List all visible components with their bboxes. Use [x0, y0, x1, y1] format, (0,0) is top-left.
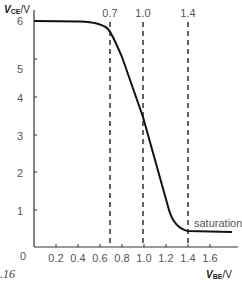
chart: 6 5 4 3 2 1 0 0.2 0.4 0.6 0.8 1.0 1.2 1.…: [0, 0, 242, 282]
x-tick-0.4: 0.4: [70, 252, 85, 264]
saturation-label: saturation: [194, 217, 242, 229]
y-tick-labels: 6 5 4 3 2 1 0: [17, 15, 26, 262]
ref-label-1.4: 1.4: [180, 7, 195, 19]
x-tick-1.4: 1.4: [180, 252, 195, 264]
x-axis-title: VBE/V: [206, 269, 232, 280]
y-tick-0: 0: [20, 250, 26, 262]
x-tick-1.0: 1.0: [136, 252, 151, 264]
x-tick-0.8: 0.8: [114, 252, 129, 264]
figure-label: 1.16: [0, 267, 15, 281]
x-tick-1.6: 1.6: [202, 252, 217, 264]
y-axis-title: VCE/V: [4, 4, 30, 15]
data-curve: [34, 21, 232, 232]
ref-label-1.0: 1.0: [135, 7, 150, 19]
y-tick-3: 3: [17, 130, 23, 142]
y-tick-2: 2: [17, 167, 23, 179]
ref-label-0.7: 0.7: [102, 7, 117, 19]
x-tick-labels: 0.2 0.4 0.6 0.8 1.0 1.2 1.4 1.6: [48, 252, 217, 264]
y-tick-6: 6: [17, 15, 23, 27]
y-tick-4: 4: [17, 92, 23, 104]
y-tick-5: 5: [17, 63, 23, 75]
x-tick-1.2: 1.2: [158, 252, 173, 264]
y-tick-1: 1: [17, 205, 23, 217]
x-tick-0.2: 0.2: [48, 252, 63, 264]
x-tick-0.6: 0.6: [92, 252, 107, 264]
